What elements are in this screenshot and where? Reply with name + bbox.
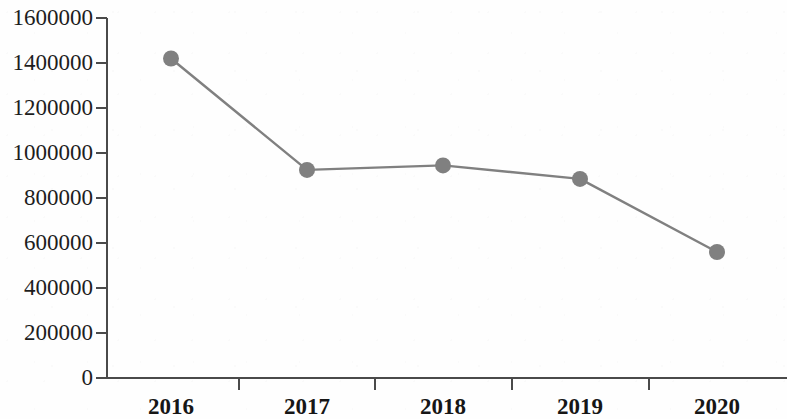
data-point-marker — [709, 244, 725, 260]
x-axis-tick-label: 2016 — [148, 394, 194, 419]
data-point-marker — [572, 171, 588, 187]
x-axis-tick-label: 2019 — [557, 394, 603, 419]
data-point-marker — [163, 51, 179, 67]
x-axis-ticks — [239, 378, 649, 390]
line-chart: 1600000 1400000 1200000 1000000 800000 6… — [0, 0, 787, 419]
data-point-marker — [435, 157, 451, 173]
x-axis-tick-label: 2018 — [420, 394, 466, 419]
data-line — [171, 59, 717, 253]
data-markers — [163, 51, 725, 261]
data-point-marker — [299, 162, 315, 178]
x-axis-tick-label: 2020 — [694, 394, 740, 419]
plot-area — [0, 0, 787, 419]
y-axis-ticks — [96, 18, 107, 378]
x-axis-tick-label: 2017 — [284, 394, 330, 419]
